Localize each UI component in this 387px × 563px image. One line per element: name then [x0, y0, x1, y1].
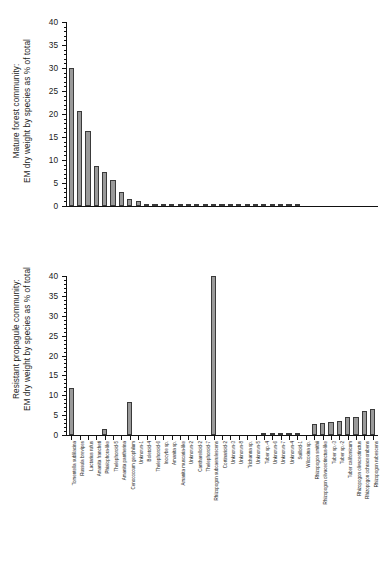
x-tick — [297, 436, 298, 440]
y-tick-minor — [64, 59, 67, 60]
y-tick-minor — [64, 105, 67, 106]
y-tick-minor — [64, 403, 67, 404]
y-tick-minor — [64, 431, 67, 432]
y-tick-minor — [64, 328, 67, 329]
x-category-label: Wilcoxina sp. — [307, 441, 312, 468]
x-category-label: Thelephoroid-5 — [115, 441, 120, 471]
x-category-label: Unknown-8 — [240, 441, 245, 464]
plot-area-bottom — [67, 276, 377, 435]
x-category-label: Unknown-4 — [291, 441, 296, 464]
bar — [69, 388, 74, 435]
bar — [312, 424, 317, 435]
bar — [178, 204, 183, 206]
bar — [85, 131, 90, 206]
y-tick-label: 30 — [49, 64, 58, 72]
x-tick — [130, 436, 131, 440]
x-tick — [147, 436, 148, 440]
x-category-label: Rhizopogon olivaceotinctus — [358, 441, 363, 496]
y-tick-minor — [64, 31, 67, 32]
bar — [370, 409, 375, 435]
y-tick-minor — [64, 151, 67, 152]
y-tick-minor — [64, 359, 67, 360]
x-tick — [88, 436, 89, 440]
y-tick-major — [62, 114, 66, 115]
x-category-label: Unknown-3 — [232, 441, 237, 464]
y-tick-minor — [64, 142, 67, 143]
y-tick-major — [62, 91, 66, 92]
x-tick — [180, 436, 181, 440]
y-tick-minor — [64, 73, 67, 74]
y-tick-major — [62, 160, 66, 161]
y-tick-major — [62, 183, 66, 184]
y-tick-minor — [64, 371, 67, 372]
x-tick — [364, 436, 365, 440]
y-tick-minor — [64, 280, 67, 281]
y-tick-minor — [64, 367, 67, 368]
bar — [203, 204, 208, 206]
y-tick-minor — [64, 312, 67, 313]
x-tick — [373, 436, 374, 440]
x-category-label: Rhizopogon ochraceorubens — [366, 441, 371, 499]
x-category-label: Unknown-2 — [190, 441, 195, 464]
y-tick-minor — [64, 174, 67, 175]
x-tick — [80, 436, 81, 440]
x-category-label: Tuber californicum — [349, 441, 354, 478]
x-tick — [163, 436, 164, 440]
y-tick-label: 0 — [53, 431, 58, 439]
bar — [362, 411, 367, 435]
y-tick-label: 20 — [49, 110, 58, 118]
x-tick — [105, 436, 106, 440]
y-tick-minor — [64, 201, 67, 202]
x-tick — [222, 436, 223, 440]
x-category-label: Tomentella sublilacina — [73, 441, 78, 485]
y-tick-minor — [64, 427, 67, 428]
x-tick — [96, 436, 97, 440]
x-category-label: Boletoid-4 — [148, 441, 153, 461]
x-tick — [205, 436, 206, 440]
figure-panel-container: Mature forest community: EM dry weight b… — [0, 0, 387, 563]
y-tick-minor — [64, 399, 67, 400]
y-tick-minor — [64, 308, 67, 309]
y-tick-minor — [64, 40, 67, 41]
y-tick-minor — [64, 411, 67, 412]
y-axis-title-bottom: Resistant propagule community: EM dry we… — [12, 234, 34, 444]
y-tick-major — [62, 276, 66, 277]
x-tick — [197, 436, 198, 440]
y-tick-minor — [64, 146, 67, 147]
x-category-label: Amanita muscaria-like — [182, 441, 187, 486]
x-tick — [339, 436, 340, 440]
y-tick-minor — [64, 344, 67, 345]
bar — [211, 276, 216, 435]
bar — [144, 204, 149, 206]
y-tick-minor — [64, 100, 67, 101]
x-tick — [138, 436, 139, 440]
bar — [152, 204, 157, 206]
y-tick-minor — [64, 391, 67, 392]
x-category-label: Suilloid-1 — [299, 441, 304, 460]
bar — [228, 204, 233, 206]
x-tick — [306, 436, 307, 440]
y-tick-label: 25 — [49, 331, 58, 339]
x-category-label: Russula brevipes — [81, 441, 86, 476]
x-category-label: Trichanna sp. — [249, 441, 254, 468]
y-tick-minor — [64, 419, 67, 420]
x-category-label: Lactarius rufus — [90, 441, 95, 471]
y-axis-title-top: Mature forest community: EM dry weight b… — [12, 8, 34, 214]
x-category-label: Cantharelloid-2 — [199, 441, 204, 472]
plot-area-top — [67, 22, 377, 206]
y-tick-label: 35 — [49, 292, 58, 300]
chart-panel-mature-forest: Mature forest community: EM dry weight b… — [0, 0, 387, 232]
x-tick — [239, 436, 240, 440]
y-tick-minor — [64, 155, 67, 156]
x-tick — [256, 436, 257, 440]
x-tick — [356, 436, 357, 440]
x-tick — [121, 436, 122, 440]
y-axis-title-top-line1: Mature forest community: — [12, 64, 21, 159]
y-tick-minor — [64, 387, 67, 388]
x-tick — [272, 436, 273, 440]
y-tick-minor — [64, 352, 67, 353]
bar — [161, 204, 166, 206]
y-tick-major — [62, 356, 66, 357]
y-tick-minor — [64, 77, 67, 78]
bar — [127, 199, 132, 206]
